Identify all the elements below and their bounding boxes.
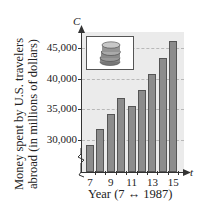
bar-9 — [107, 114, 115, 172]
bar-14 — [159, 58, 167, 172]
coin-stack-image — [86, 36, 134, 70]
y-variable-label: C — [73, 15, 80, 27]
y-tick-label: 45,000 — [47, 42, 77, 53]
x-axis-title: Year (7 ↔ 1987) — [88, 187, 173, 202]
y-axis-title-line2: abroad (in millions of dollars) — [26, 24, 40, 204]
bar-12 — [138, 90, 146, 172]
x-axis — [82, 172, 186, 173]
y-tick-label: 35,000 — [47, 103, 77, 114]
y-tick-label: 30,000 — [47, 134, 77, 145]
axis-break-icon — [76, 148, 86, 178]
x-variable-label: t — [190, 166, 193, 178]
y-axis-title-line1: Money spent by U.S. travelers — [12, 24, 26, 204]
y-axis-title: Money spent by U.S. travelers abroad (in… — [12, 24, 40, 204]
bar-15 — [169, 41, 177, 172]
bar-11 — [128, 106, 136, 172]
bar-8 — [96, 129, 104, 172]
bar-7 — [86, 145, 94, 172]
bar-13 — [148, 74, 156, 172]
bar-10 — [117, 98, 125, 172]
coin-stack-icon — [87, 37, 133, 69]
y-tick-label: 40,000 — [47, 73, 77, 84]
